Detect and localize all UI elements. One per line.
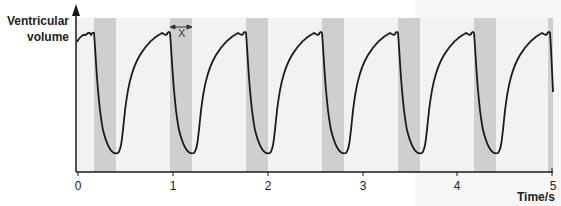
ventricular-volume-figure: Ventricular volume X 0 1 2 3 4 5 Time/s xyxy=(0,0,561,206)
interval-annotation-label: X xyxy=(178,27,185,39)
y-axis-arrow-icon xyxy=(72,4,80,16)
shaded-band xyxy=(246,18,268,172)
y-axis-label-line1: Ventricular xyxy=(7,13,69,29)
shaded-band xyxy=(398,18,420,172)
shaded-band xyxy=(94,18,116,172)
x-tick-label-4: 4 xyxy=(454,179,461,193)
x-tick-label-1: 1 xyxy=(170,179,177,193)
x-tick-label-3: 3 xyxy=(360,179,367,193)
shaded-band xyxy=(474,18,496,172)
shaded-band xyxy=(322,18,344,172)
x-tick-label-0: 0 xyxy=(75,179,82,193)
x-tick-label-2: 2 xyxy=(265,179,272,193)
y-axis-label-line2: volume xyxy=(7,29,69,45)
x-axis-label: Time/s xyxy=(517,190,555,204)
y-axis-label: Ventricular volume xyxy=(7,13,69,45)
shaded-band xyxy=(170,18,192,172)
chart-canvas xyxy=(0,0,561,206)
